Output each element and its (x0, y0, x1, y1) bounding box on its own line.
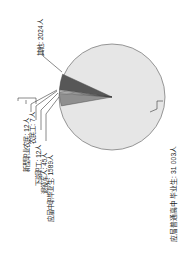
leader-line-migrant-worker (31, 90, 57, 112)
label-migrant-worker: 农民工: 7人 (28, 112, 37, 144)
label-highschool-grad: 应届普通高中毕业生: 31 003人 (168, 146, 178, 242)
label-vocational-grad: 应届中职毕业生: 1589人 (46, 155, 55, 222)
label-other: 其他: 2024人 (36, 19, 45, 56)
leader-line-veteran (41, 93, 58, 130)
leader-line-vocational-grad (46, 97, 59, 141)
pie-chart-figure: 其他: 2024人 新型职业农民: 12人 农民工: 7人 下岗职工: 12人 … (0, 0, 185, 279)
